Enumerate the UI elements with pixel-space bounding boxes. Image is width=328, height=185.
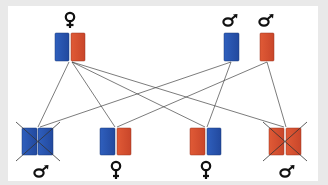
chromosome-blue (38, 128, 53, 155)
chromosome-red (71, 33, 85, 61)
male-parent-blue (223, 14, 239, 61)
chromosome-red (117, 128, 131, 155)
male-symbol-icon (259, 14, 273, 26)
chromosome-red (260, 33, 274, 61)
chromosome-red (190, 128, 205, 155)
chromosome-blue (224, 33, 239, 61)
line-female-to-offspring-2 (72, 62, 115, 127)
line-female-to-offspring-4 (72, 62, 284, 127)
line-male-blue-to-offspring-1 (40, 62, 231, 127)
chromosome-blue (22, 128, 37, 155)
male-symbol-icon (34, 165, 48, 177)
chromosome-red (269, 128, 284, 155)
line-male-red-to-offspring-2 (117, 62, 267, 127)
male-symbol-icon (280, 165, 294, 177)
offspring-3 (190, 128, 221, 179)
female-symbol-icon (202, 162, 210, 179)
line-female-to-offspring-3 (72, 62, 205, 127)
female-parent (55, 13, 85, 61)
chromosome-blue (100, 128, 115, 155)
male-symbol-icon (223, 14, 237, 26)
offspring-1 (16, 122, 60, 177)
diagram-stage (0, 0, 328, 185)
offspring-2 (100, 128, 131, 179)
line-male-blue-to-offspring-3 (207, 62, 231, 127)
chromosome-blue (207, 128, 221, 155)
chromosome-blue (55, 33, 69, 61)
female-symbol-icon (112, 162, 120, 179)
female-symbol-icon (66, 13, 74, 28)
offspring-4 (263, 122, 307, 177)
line-female-to-offspring-1 (38, 62, 69, 127)
chromosome-red (286, 128, 301, 155)
connection-lines (38, 62, 286, 127)
male-parent-red (259, 14, 274, 61)
inheritance-diagram (0, 0, 328, 185)
line-male-red-to-offspring-4 (267, 62, 286, 127)
